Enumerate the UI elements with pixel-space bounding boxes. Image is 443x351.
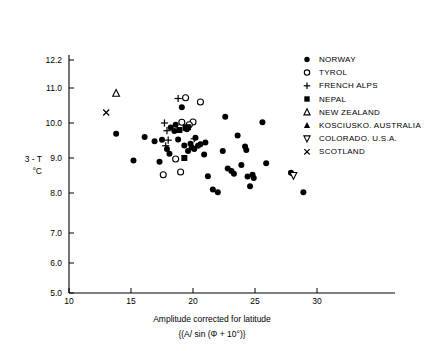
y-tick-label: 7.0 (50, 228, 62, 238)
dot (205, 173, 211, 179)
series-scotland (103, 110, 109, 116)
marker-filled-circle (181, 142, 187, 148)
marker-open-circle (173, 156, 179, 162)
legend: NORWAYTYROLFRENCH ALPSNEPALNEW ZEALANDKO… (304, 55, 422, 156)
dot (157, 159, 163, 165)
marker-filled-circle (263, 160, 269, 166)
marker-open-triangle-up (304, 109, 310, 115)
data-points (103, 90, 306, 196)
y-tick-label: 5.0 (50, 288, 62, 298)
legend-item-french-alps[interactable]: FRENCH ALPS (304, 81, 378, 90)
dot (201, 152, 207, 158)
marker-filled-circle (222, 114, 228, 120)
marker-open-circle (179, 119, 185, 125)
marker-filled-circle (157, 159, 163, 165)
marker-filled-circle (235, 133, 241, 139)
dot (185, 148, 191, 154)
legend-label: KOSCIUSKO. AUSTRALIA (319, 121, 421, 130)
x-tick-label: 10 (64, 296, 74, 306)
marker-filled-square (181, 155, 187, 161)
marker-open-triangle-up (113, 90, 120, 97)
legend-item-new-zealand[interactable]: NEW ZEALAND (304, 108, 380, 117)
marker-filled-circle (152, 138, 158, 144)
dot (192, 135, 198, 141)
marker-open-circle (197, 99, 203, 105)
dot (228, 168, 234, 174)
legend-label: NORWAY (319, 55, 356, 64)
dot (215, 189, 221, 195)
marker-filled-circle (251, 175, 257, 181)
dot (173, 122, 179, 128)
y-tick-label: 8.0 (50, 188, 62, 198)
legend-item-norway[interactable]: NORWAY (304, 55, 356, 64)
marker-filled-circle (215, 189, 221, 195)
dot (263, 160, 269, 166)
legend-item-scotland[interactable]: SCOTLAND (304, 147, 365, 156)
dot (152, 138, 158, 144)
dot (142, 134, 148, 140)
marker-open-circle (178, 169, 184, 175)
legend-item-colorado-u-s-a[interactable]: COLORADO. U.S.A. (304, 134, 397, 143)
marker-filled-square (176, 127, 182, 133)
dot (300, 189, 306, 195)
legend-item-kosciusko-australia[interactable]: KOSCIUSKO. AUSTRALIA (304, 121, 421, 130)
dot (220, 148, 226, 154)
marker-filled-circle (159, 137, 165, 143)
y-tick-label: 11.0 (46, 83, 62, 93)
dot (259, 119, 265, 125)
y-tick-label: 9.0 (50, 153, 62, 163)
marker-filled-circle (130, 157, 136, 163)
marker-filled-circle (228, 168, 234, 174)
dot (113, 131, 119, 137)
marker-filled-circle (304, 57, 309, 62)
marker-open-triangle-down (304, 136, 310, 142)
marker-open-triangle-down (290, 173, 297, 180)
plot-canvas: 10152025305.06.07.08.09.010.011.012.2Amp… (0, 0, 443, 351)
legend-label: TYROL (319, 68, 347, 77)
series-new-zealand (113, 90, 120, 97)
legend-label: COLORADO. U.S.A. (319, 134, 397, 143)
dot (183, 95, 189, 101)
marker-cross-x (304, 149, 309, 154)
dot (179, 104, 185, 110)
marker-filled-circle (205, 173, 211, 179)
dot (185, 124, 191, 130)
dot (304, 57, 309, 62)
marker-filled-square (185, 124, 191, 130)
y-axis-title-line2: °C (32, 166, 42, 176)
legend-label: FRENCH ALPS (319, 81, 378, 90)
dot (238, 162, 244, 168)
dot (181, 142, 187, 148)
legend-item-tyrol[interactable]: TYROL (304, 68, 347, 77)
marker-filled-circle (175, 136, 181, 142)
dot (243, 147, 249, 153)
legend-item-nepal[interactable]: NEPAL (304, 95, 346, 104)
marker-filled-circle (220, 148, 226, 154)
dot (290, 173, 297, 180)
x-axis-title: Amplitude corrected for latitude (153, 314, 271, 324)
marker-filled-circle (202, 140, 208, 146)
marker-open-circle (304, 70, 309, 75)
dot (159, 137, 165, 143)
dot (202, 140, 208, 146)
marker-filled-circle (238, 162, 244, 168)
dot (235, 133, 241, 139)
dot (175, 136, 181, 142)
marker-plus (304, 83, 311, 90)
marker-filled-triangle-up (304, 122, 310, 128)
series-colorado-u-s-a (290, 173, 297, 180)
marker-open-circle (183, 95, 189, 101)
marker-filled-circle (113, 131, 119, 137)
dot (251, 175, 257, 181)
dot (304, 122, 310, 128)
scatter-plot-figure: 10152025305.06.07.08.09.010.011.012.2Amp… (0, 0, 443, 351)
dot (304, 109, 310, 115)
dot (247, 183, 253, 189)
x-tick-label: 20 (188, 296, 198, 306)
marker-filled-circle (201, 152, 207, 158)
y-tick-label: 10.0 (45, 118, 62, 128)
marker-filled-circle (243, 147, 249, 153)
marker-cross-x (103, 110, 109, 116)
marker-open-circle (160, 172, 166, 178)
dot (304, 96, 309, 101)
